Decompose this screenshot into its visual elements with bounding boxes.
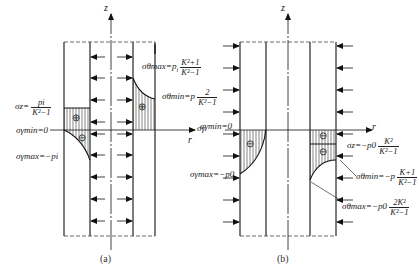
sigma-z-label-a: σz= piK²−1 (15, 98, 51, 116)
r-axis-label-a: r (188, 134, 192, 145)
z-axis-label-b: z (281, 2, 285, 13)
sigma-theta-max-label-a: σθmax=pi K²+1K²−1 (142, 58, 201, 76)
minus-sign-r-b: ⊖ (246, 139, 254, 149)
sigma-r-min-label-b: σγmin=0 (200, 122, 232, 131)
minus-sign-r-a: ⊖ (78, 133, 86, 143)
minus-sign-theta-b: ⊖ (319, 147, 327, 157)
sigma-z-label-b: σz=−p0 K²K²−1 (347, 137, 399, 155)
r-axis-label-b: r (372, 121, 376, 132)
sigma-r-min-label-a: σγmin=0 (16, 126, 48, 135)
sigma-theta-max-label-b: σθmax=−p0 2K²K²−1 (342, 198, 409, 216)
caption-b: (b) (277, 253, 289, 264)
figure-a (50, 14, 195, 250)
sigma-r-region-a (64, 130, 90, 160)
plus-sign-z-a: ⊕ (72, 113, 80, 123)
sigma-theta-min-label-a: σθmin=p 2K²−1 (162, 88, 217, 106)
sigma-theta-min-label-b: σθmin=−p K+1K²−1 (356, 168, 417, 186)
z-axis-label-a: z (104, 2, 108, 13)
plus-sign-theta-a: ⊕ (138, 102, 146, 112)
sigma-r-max-label-a: σγmax=−pi (16, 152, 58, 161)
caption-a: (a) (100, 253, 111, 264)
sigma-r-max-label-b: σγmax=−p0 (190, 170, 234, 179)
sigma-r-region-b (240, 130, 266, 174)
minus-sign-z-b: ⊖ (319, 131, 327, 141)
